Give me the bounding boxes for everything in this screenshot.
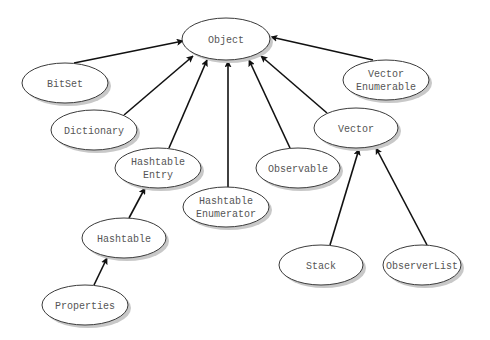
node-label: Dictionary xyxy=(64,126,124,137)
edge-vector-enumerable-to-object xyxy=(271,37,373,60)
node-label: Stack xyxy=(306,261,336,272)
node-bitset: BitSet xyxy=(22,63,111,106)
node-label: ObserverList xyxy=(386,261,458,272)
node-object: Object xyxy=(182,18,273,63)
node-label: Enumerable xyxy=(356,82,416,93)
node-label: BitSet xyxy=(47,79,83,90)
node-label: Enumerator xyxy=(196,209,256,220)
node-observable: Observable xyxy=(256,148,343,191)
node-stack: Stack xyxy=(279,245,366,288)
edge-bitset-to-object xyxy=(74,41,183,63)
node-properties: Properties xyxy=(42,285,131,328)
edge-vector-to-object xyxy=(261,56,327,113)
node-label: Hashtable xyxy=(199,196,253,207)
node-ellipse xyxy=(115,148,201,188)
node-label: Entry xyxy=(143,170,173,181)
node-hashtable-entry: HashtableEntry xyxy=(115,148,204,191)
node-label: Observable xyxy=(268,164,328,175)
node-label: Vector xyxy=(338,124,374,135)
node-observerlist: ObserverList xyxy=(383,245,464,288)
node-hashtable: Hashtable xyxy=(82,218,169,261)
edge-hashtable-entry-to-object xyxy=(169,60,207,148)
node-vector-enumerable: VectorEnumerable xyxy=(343,60,432,103)
edge-properties-to-hashtable xyxy=(94,258,107,285)
edge-observerlist-to-vector xyxy=(376,148,427,245)
edge-dictionary-to-object xyxy=(124,56,193,115)
node-vector: Vector xyxy=(314,108,401,151)
node-dictionary: Dictionary xyxy=(51,110,140,153)
node-label: Properties xyxy=(55,301,115,312)
node-ellipse xyxy=(183,187,269,227)
node-label: Hashtable xyxy=(131,157,185,168)
node-label: Vector xyxy=(368,69,404,80)
class-hierarchy-diagram: ObjectBitSetVectorEnumerableDictionaryVe… xyxy=(0,0,490,340)
node-label: Hashtable xyxy=(97,234,151,245)
nodes-layer: ObjectBitSetVectorEnumerableDictionaryVe… xyxy=(22,18,464,328)
edge-hashtable-to-hashtable-entry xyxy=(129,188,145,218)
edge-observable-to-object xyxy=(249,60,290,148)
node-label: Object xyxy=(208,35,244,46)
node-ellipse xyxy=(343,60,429,100)
node-hashtable-enumerator: HashtableEnumerator xyxy=(183,187,272,230)
